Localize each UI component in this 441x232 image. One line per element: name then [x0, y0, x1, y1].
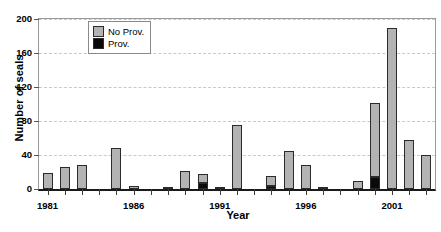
x-tick-label-1981: 1981 — [28, 200, 68, 211]
x-tick-label-1986: 1986 — [114, 200, 154, 211]
legend-swatch-no-prov — [93, 26, 104, 37]
bar-segment-no-prov-1981 — [43, 173, 53, 189]
bar-segment-no-prov-2000 — [370, 103, 380, 177]
bar-segment-no-prov-1994 — [266, 176, 276, 185]
bar-segment-no-prov-1989 — [180, 171, 190, 189]
x-tick-1993 — [254, 189, 255, 195]
x-tick-label-1996: 1996 — [286, 200, 326, 211]
bar-1986 — [129, 186, 139, 189]
y-tick-0 — [34, 189, 39, 190]
bar-segment-no-prov-1997 — [318, 187, 328, 189]
x-tick-2002 — [409, 189, 410, 195]
y-tick-80 — [34, 121, 39, 122]
x-tick-label-1991: 1991 — [200, 200, 240, 211]
bar-segment-no-prov-1991 — [215, 187, 225, 189]
chart-figure: Number of seals Year 0408012016020019811… — [0, 0, 441, 232]
x-tick-1999 — [358, 189, 359, 195]
bar-1995 — [284, 151, 294, 189]
bar-1999 — [353, 181, 363, 190]
bar-1991 — [215, 187, 225, 189]
bar-segment-prov-1994 — [266, 186, 276, 189]
gridline-120 — [39, 87, 435, 88]
x-tick-1994 — [271, 189, 272, 195]
bar-2002 — [404, 140, 414, 189]
bar-segment-no-prov-1983 — [77, 165, 87, 189]
bar-segment-no-prov-2001 — [387, 28, 397, 190]
y-tick-label-160: 160 — [0, 47, 32, 58]
legend-label-prov: Prov. — [108, 38, 129, 49]
bar-1988 — [163, 187, 173, 189]
x-tick-1996 — [306, 189, 307, 195]
bar-segment-no-prov-1985 — [111, 148, 121, 189]
bar-1981 — [43, 173, 53, 189]
bar-segment-no-prov-1996 — [301, 165, 311, 189]
bar-1982 — [60, 167, 70, 189]
legend-item-prov: Prov. — [93, 37, 144, 49]
x-tick-1992 — [237, 189, 238, 195]
y-tick-120 — [34, 87, 39, 88]
x-tick-1981 — [48, 189, 49, 195]
bar-1990 — [198, 174, 208, 189]
legend-swatch-prov — [93, 38, 104, 49]
x-tick-1986 — [134, 189, 135, 195]
x-tick-1987 — [151, 189, 152, 195]
y-tick-200 — [34, 19, 39, 20]
bar-segment-no-prov-1986 — [129, 186, 139, 189]
bar-1997 — [318, 188, 328, 189]
bar-segment-no-prov-1982 — [60, 167, 70, 189]
x-tick-2001 — [392, 189, 393, 195]
x-tick-1997 — [323, 189, 324, 195]
chart-legend: No Prov. Prov. — [88, 21, 151, 54]
y-tick-label-0: 0 — [0, 183, 32, 194]
x-tick-1984 — [99, 189, 100, 195]
bar-1985 — [111, 148, 121, 189]
x-tick-1983 — [82, 189, 83, 195]
bar-segment-no-prov-1992 — [232, 125, 242, 189]
legend-item-no-prov: No Prov. — [93, 25, 144, 37]
x-tick-1985 — [116, 189, 117, 195]
x-tick-1990 — [203, 189, 204, 195]
x-tick-1989 — [185, 189, 186, 195]
bar-1994 — [266, 176, 276, 189]
bar-segment-no-prov-1988 — [163, 187, 173, 189]
x-tick-label-2001: 2001 — [372, 200, 412, 211]
y-tick-label-80: 80 — [0, 115, 32, 126]
y-tick-40 — [34, 155, 39, 156]
bar-segment-no-prov-1990 — [198, 174, 208, 183]
bar-segment-no-prov-2003 — [421, 155, 431, 189]
bar-1989 — [180, 171, 190, 189]
bar-1996 — [301, 165, 311, 189]
bar-segment-prov-2000 — [370, 177, 380, 189]
bar-2000 — [370, 103, 380, 189]
bar-segment-no-prov-1995 — [284, 151, 294, 189]
bar-segment-no-prov-1999 — [353, 181, 363, 190]
x-tick-1995 — [289, 189, 290, 195]
x-tick-1988 — [168, 189, 169, 195]
x-tick-2003 — [426, 189, 427, 195]
x-tick-1998 — [340, 189, 341, 195]
bar-1983 — [77, 165, 87, 189]
x-tick-2000 — [375, 189, 376, 195]
x-tick-1991 — [220, 189, 221, 195]
y-tick-label-120: 120 — [0, 81, 32, 92]
y-tick-label-200: 200 — [0, 13, 32, 24]
x-tick-1982 — [65, 189, 66, 195]
gridline-200 — [39, 19, 435, 20]
y-tick-160 — [34, 53, 39, 54]
y-tick-label-40: 40 — [0, 149, 32, 160]
bar-2001 — [387, 28, 397, 190]
bar-1992 — [232, 125, 242, 189]
bar-2003 — [421, 155, 431, 189]
bar-segment-prov-1990 — [198, 183, 208, 189]
bar-segment-no-prov-2002 — [404, 140, 414, 189]
legend-label-no-prov: No Prov. — [108, 26, 144, 37]
